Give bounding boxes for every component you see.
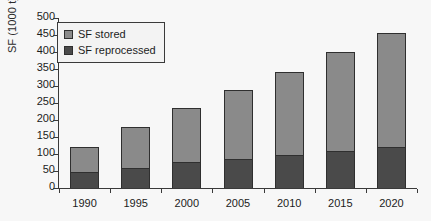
y-axis-tick-label: 350 <box>24 61 55 73</box>
x-axis-tick-mark <box>110 189 111 193</box>
y-axis-tick-label: 250 <box>24 95 55 107</box>
x-axis-tick-label: 2010 <box>262 196 316 210</box>
bar-group[interactable] <box>172 108 201 188</box>
bar-group[interactable] <box>70 147 99 188</box>
y-axis-tick-mark <box>53 154 58 155</box>
y-axis-tick-labels: 500450400350300250200150100500 <box>24 16 55 188</box>
y-axis-tick-mark <box>53 69 58 70</box>
bar-segment-sf-reprocessed[interactable] <box>70 172 99 188</box>
x-axis-line <box>58 188 417 189</box>
y-axis-tick-label: 150 <box>24 129 55 141</box>
y-axis-tick-mark <box>53 18 58 19</box>
legend-swatch-icon <box>64 30 73 39</box>
y-axis-tick-label: 50 <box>24 163 55 175</box>
legend-label: SF stored <box>78 28 126 41</box>
legend-swatch-icon <box>64 46 73 55</box>
y-axis-tick-label: 450 <box>24 27 55 39</box>
legend-item[interactable]: SF reprocessed <box>64 42 156 58</box>
y-axis-tick-label: 200 <box>24 112 55 124</box>
x-axis-tick-labels: 1990199520002005201020152020 <box>59 196 417 212</box>
bar-segment-sf-reprocessed[interactable] <box>121 168 150 188</box>
bar-segment-sf-stored[interactable] <box>326 52 355 151</box>
bar-segment-sf-stored[interactable] <box>275 72 304 155</box>
x-axis-tick-label: 2005 <box>211 196 265 210</box>
bar-segment-sf-reprocessed[interactable] <box>224 159 253 188</box>
bar-segment-sf-reprocessed[interactable] <box>172 162 201 188</box>
x-axis-tick-mark <box>264 189 265 193</box>
bar-segment-sf-reprocessed[interactable] <box>377 147 406 188</box>
bar-segment-sf-reprocessed[interactable] <box>326 151 355 188</box>
y-axis-tick-label: 0 <box>24 180 55 192</box>
y-axis-title: SF (1000 t) <box>6 0 22 80</box>
x-axis-tick-mark <box>161 189 162 193</box>
y-axis-tick-label: 100 <box>24 146 55 158</box>
y-axis-tick-mark <box>53 171 58 172</box>
bar-segment-sf-stored[interactable] <box>121 127 150 167</box>
x-axis-tick-label: 1990 <box>58 196 112 210</box>
y-axis-tick-mark <box>53 137 58 138</box>
x-axis-tick-mark <box>212 189 213 193</box>
bar-segment-sf-stored[interactable] <box>224 90 253 159</box>
y-axis-tick-mark <box>53 120 58 121</box>
bar-group[interactable] <box>275 72 304 188</box>
legend-item[interactable]: SF stored <box>64 26 156 42</box>
y-axis-tick-mark <box>53 103 58 104</box>
y-axis-tick-label: 400 <box>24 44 55 56</box>
x-axis-tick-mark <box>417 189 418 193</box>
bar-segment-sf-stored[interactable] <box>377 33 406 147</box>
x-axis-tick-label: 2020 <box>364 196 418 210</box>
legend-label: SF reprocessed <box>78 44 156 57</box>
x-axis-tick-mark <box>315 189 316 193</box>
x-axis-tick-mark <box>59 189 60 193</box>
bar-group[interactable] <box>121 127 150 188</box>
x-axis-tick-mark <box>366 189 367 193</box>
bar-group[interactable] <box>326 52 355 188</box>
bar-segment-sf-stored[interactable] <box>70 147 99 172</box>
bar-segment-sf-stored[interactable] <box>172 108 201 162</box>
bar-segment-sf-reprocessed[interactable] <box>275 155 304 188</box>
x-axis-tick-label: 2000 <box>160 196 214 210</box>
y-axis-tick-label: 500 <box>24 10 55 22</box>
x-axis-tick-label: 2015 <box>313 196 367 210</box>
bar-group[interactable] <box>377 33 406 188</box>
y-axis-tick-mark <box>53 86 58 87</box>
y-axis-tick-label: 300 <box>24 78 55 90</box>
chart-legend: SF storedSF reprocessed <box>57 22 165 63</box>
bar-group[interactable] <box>224 90 253 188</box>
stacked-bar-chart: SF (1000 t) 5004504003503002502001501005… <box>0 0 431 221</box>
x-axis-tick-label: 1995 <box>109 196 163 210</box>
